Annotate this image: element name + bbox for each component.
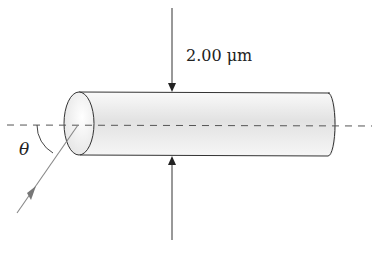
ray-arrowhead-icon bbox=[27, 186, 36, 200]
dimension-arrow-bottom bbox=[168, 156, 176, 240]
angle-arc bbox=[37, 125, 53, 153]
diameter-label: 2.00 μm bbox=[186, 46, 252, 65]
cylinder bbox=[64, 92, 336, 156]
dimension-arrow-top bbox=[168, 8, 176, 92]
fiber-diagram bbox=[0, 0, 375, 271]
angle-theta-label: θ bbox=[19, 139, 29, 159]
fiber-end-face bbox=[64, 92, 94, 155]
